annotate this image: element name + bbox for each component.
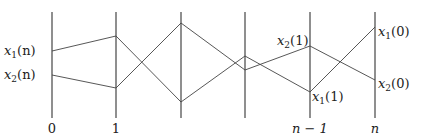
axis-label-0: 0 (48, 121, 56, 136)
label-x1-n: x1(n) (4, 43, 36, 60)
diagram-canvas: x1(n) x2(n) x2(1) x1(1) x1(0) x2(0) 0 1 … (0, 0, 421, 140)
axis-label-n: n (371, 121, 379, 136)
label-x2-n: x2(n) (4, 67, 36, 84)
label-x1-0: x1(0) (378, 24, 410, 41)
axis-label-1: 1 (112, 121, 120, 136)
label-x1-1: x1(1) (312, 89, 344, 106)
label-x2-0: x2(0) (378, 76, 410, 93)
axis-label-n-minus-1: n − 1 (292, 121, 328, 136)
label-x2-1: x2(1) (277, 33, 309, 50)
